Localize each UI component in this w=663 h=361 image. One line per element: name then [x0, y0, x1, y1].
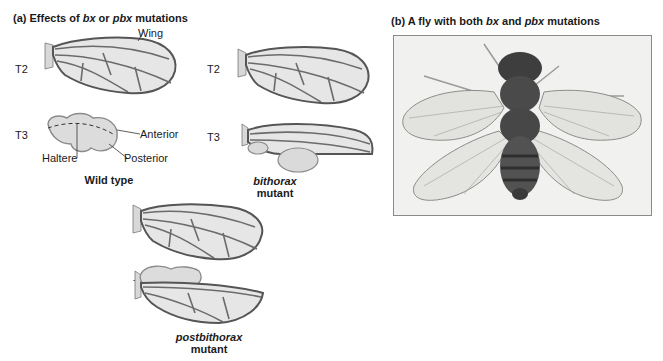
wildtype-haltere: [45, 112, 125, 156]
anterior-label: Anterior: [140, 128, 179, 140]
postbithorax-caption-mutant: mutant: [191, 343, 228, 355]
bithorax-t2-label: T2: [207, 63, 220, 75]
wildtype-t3-label: T3: [15, 129, 28, 141]
bithorax-t3-label: T3: [207, 131, 220, 143]
four-winged-fly-icon: [394, 36, 651, 215]
wildtype-t2-wing: [43, 35, 178, 97]
title-text: (a) Effects of: [13, 12, 83, 24]
bithorax-t3-wing: [240, 124, 375, 174]
postbithorax-caption-gene: postbithorax: [164, 331, 254, 343]
wing-icon: [242, 124, 372, 172]
wing-icon: [238, 47, 369, 103]
wing-icon: [45, 31, 176, 93]
title-gene-pbx: pbx: [113, 12, 133, 24]
posterior-label: Posterior: [124, 152, 168, 164]
wildtype-caption: Wild type: [74, 174, 144, 186]
panel-b-title: (b) A fly with both bx and pbx mutations: [391, 15, 600, 27]
bithorax-t2-wing: [236, 47, 371, 109]
wildtype-t2-label: T2: [15, 63, 28, 75]
fly-photograph: [393, 35, 652, 216]
bithorax-caption-gene: bithorax: [240, 175, 310, 187]
title-text: mutations: [544, 15, 600, 27]
bithorax-caption-mutant: mutant: [257, 187, 294, 199]
title-text: (b) A fly with both: [391, 15, 486, 27]
title-text: and: [499, 15, 525, 27]
bithorax-caption: bithorax mutant: [240, 175, 310, 199]
wing-icon: [133, 204, 262, 259]
title-gene-bx: bx: [486, 15, 499, 27]
title-text: mutations: [132, 12, 188, 24]
postbithorax-caption: postbithorax mutant: [164, 331, 254, 355]
wing-icon: [135, 266, 263, 323]
postbithorax-t3-wing: [133, 267, 268, 325]
title-text: or: [96, 12, 113, 24]
title-gene-pbx: pbx: [525, 15, 545, 27]
postbithorax-t2-wing: [131, 205, 266, 265]
panel-a-title: (a) Effects of bx or pbx mutations: [13, 12, 188, 24]
title-gene-bx: bx: [83, 12, 96, 24]
